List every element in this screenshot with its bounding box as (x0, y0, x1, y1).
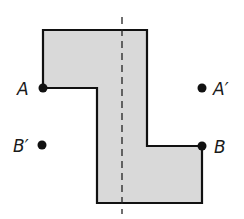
point-b (198, 142, 207, 151)
point-label-a: A (16, 79, 29, 99)
diagram-canvas: AA′BB′ (0, 0, 244, 219)
point-label-b: B (214, 137, 226, 157)
reflection-diagram: AA′BB′ (0, 0, 244, 219)
point-a-prime (198, 84, 207, 93)
point-label-a-prime: A′ (212, 79, 229, 99)
point-label-b-prime: B′ (13, 136, 29, 156)
point-a (39, 84, 48, 93)
point-b-prime (38, 141, 47, 150)
